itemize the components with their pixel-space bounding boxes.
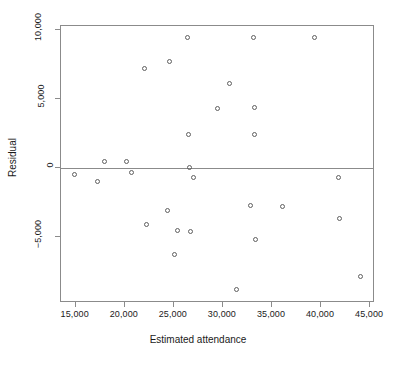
data-point: [187, 165, 192, 170]
data-point: [102, 159, 107, 164]
x-tick-label: 35,000: [257, 309, 285, 319]
x-axis-title: Estimated attendance: [0, 334, 396, 345]
data-point: [227, 81, 232, 86]
data-point: [280, 204, 285, 209]
data-point: [337, 216, 342, 221]
data-point: [186, 132, 191, 137]
data-point: [251, 35, 256, 40]
x-tick-label: 15,000: [61, 309, 89, 319]
x-tick-label: 20,000: [110, 309, 138, 319]
data-point: [167, 59, 172, 64]
y-tick-label: 10,000: [0, 22, 52, 32]
x-tick-mark: [124, 302, 125, 307]
data-point: [253, 237, 258, 242]
y-axis-title: Residual: [7, 118, 18, 198]
x-tick-mark: [320, 302, 321, 307]
data-point: [72, 172, 77, 177]
y-tick-label: 5,000: [0, 91, 52, 101]
zero-reference-line: [61, 168, 373, 169]
x-tick-mark: [222, 302, 223, 307]
data-point: [248, 203, 253, 208]
x-tick-label: 45,000: [355, 309, 383, 319]
x-tick-label: 40,000: [306, 309, 334, 319]
x-tick-label: 25,000: [159, 309, 187, 319]
data-point: [252, 105, 257, 110]
y-tick-label: 0: [0, 160, 52, 170]
data-point: [165, 208, 170, 213]
data-point: [95, 179, 100, 184]
x-tick-label: 30,000: [208, 309, 236, 319]
data-point: [252, 132, 257, 137]
plot-area: [61, 26, 373, 301]
data-point: [358, 274, 363, 279]
x-tick-mark: [173, 302, 174, 307]
data-point: [142, 66, 147, 71]
data-point: [172, 252, 177, 257]
data-point: [234, 287, 239, 292]
x-tick-mark: [369, 302, 370, 307]
x-tick-mark: [271, 302, 272, 307]
y-tick-label: −5,000: [0, 229, 52, 239]
data-point: [124, 159, 129, 164]
data-point: [175, 228, 180, 233]
data-point: [129, 170, 134, 175]
data-point: [188, 229, 193, 234]
data-point: [312, 35, 317, 40]
data-point: [144, 222, 149, 227]
plot-frame: [60, 25, 374, 302]
data-point: [185, 35, 190, 40]
data-point: [215, 106, 220, 111]
data-point: [191, 175, 196, 180]
residual-scatter-plot: Residual −5,00005,00010,000 15,00020,000…: [0, 0, 396, 367]
data-point: [336, 175, 341, 180]
x-tick-mark: [75, 302, 76, 307]
